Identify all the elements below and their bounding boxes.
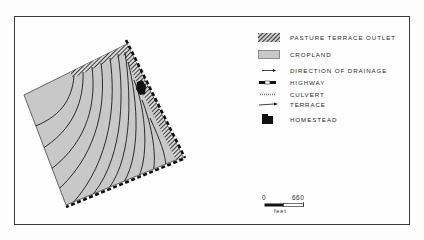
legend-item-terrace: TERRACE: [258, 99, 280, 109]
scale-start-label: 0: [262, 194, 266, 201]
legend-item-cropland: CROPLAND: [258, 49, 280, 59]
arrow-icon: [258, 65, 280, 75]
legend-label: HIGHWAY: [290, 79, 325, 86]
highway-icon: [258, 77, 280, 87]
legend-label: TERRACE: [290, 101, 326, 108]
terrace-arrow-icon: [258, 99, 280, 109]
scale-unit-label: feet: [274, 208, 287, 214]
legend-label: DIRECTION OF DRAINAGE: [290, 67, 387, 74]
legend-item-homestead: HOMESTEAD: [258, 114, 280, 124]
gray-box-icon: [258, 49, 280, 59]
legend-item-drainage: DIRECTION OF DRAINAGE: [258, 65, 280, 75]
legend-label: HOMESTEAD: [290, 116, 337, 123]
legend-label: CULVERT: [290, 91, 325, 98]
legend-label: CROPLAND: [290, 51, 332, 58]
homestead-icon: [258, 114, 280, 124]
hatched-box-icon: [258, 32, 280, 42]
culvert-icon: [258, 89, 280, 99]
scale-end-label: 660: [292, 194, 304, 201]
legend-item-culvert: CULVERT: [258, 89, 280, 99]
legend-label: PASTURE TERRACE OUTLET: [290, 34, 396, 41]
legend-item-highway: HIGHWAY: [258, 77, 280, 87]
legend-item-pasture: PASTURE TERRACE OUTLET: [258, 32, 280, 42]
